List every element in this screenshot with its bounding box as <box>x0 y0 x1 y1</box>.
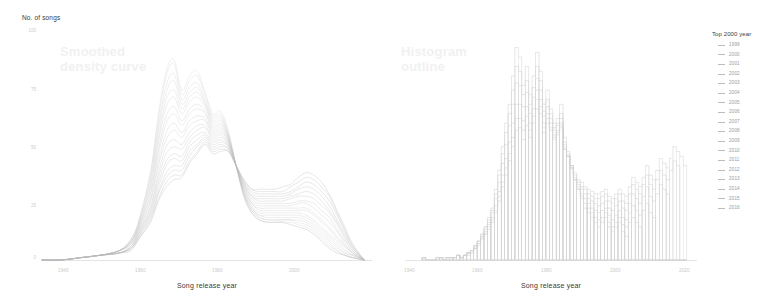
histogram-bin <box>436 258 439 260</box>
right-xtick-2020: 2020 <box>679 268 690 273</box>
histogram-bin <box>422 258 425 260</box>
legend-item[interactable]: 2000 <box>712 50 778 60</box>
histogram-bin <box>525 81 528 260</box>
histogram-bin <box>487 220 490 260</box>
histogram-bin <box>474 248 477 260</box>
histogram-bin <box>594 210 597 260</box>
left-ytick-75: 75 <box>22 87 36 92</box>
histogram-bin <box>491 222 494 260</box>
histogram-bin <box>515 130 518 260</box>
histogram-bin <box>487 229 490 260</box>
histogram-bin <box>587 194 590 260</box>
histogram-bin <box>618 201 621 260</box>
histogram-bin <box>522 140 525 260</box>
histogram-bin <box>604 208 607 260</box>
histogram-bin <box>546 107 549 260</box>
histogram-bin <box>536 78 539 260</box>
histogram-bin <box>460 258 463 260</box>
histogram-bin <box>584 203 587 260</box>
legend-item[interactable]: 2014 <box>712 184 778 194</box>
histogram-bin <box>594 194 597 260</box>
histogram-bin <box>470 253 473 260</box>
histogram-bin <box>591 218 594 260</box>
legend-item[interactable]: 2006 <box>712 108 778 118</box>
histogram-bin <box>460 258 463 260</box>
legend-item-label: 2016 <box>729 206 740 211</box>
histogram-bin <box>621 232 624 260</box>
histogram-bin <box>573 175 576 260</box>
histogram-bin <box>639 215 642 260</box>
histogram-bin <box>635 189 638 260</box>
histogram-bin <box>494 194 497 260</box>
histogram-bin <box>542 133 545 260</box>
histogram-bin <box>580 196 583 260</box>
histogram-bin <box>553 140 556 260</box>
histogram-bin <box>639 187 642 260</box>
legend-item[interactable]: 2015 <box>712 194 778 204</box>
histogram-bin <box>539 114 542 260</box>
histogram-bin <box>525 116 528 260</box>
histogram-bin <box>570 168 573 260</box>
histogram-bin <box>532 109 535 260</box>
legend-item[interactable]: 2005 <box>712 98 778 108</box>
histogram-bin <box>652 201 655 260</box>
histogram-bin <box>625 236 628 260</box>
histogram-bin <box>439 258 442 260</box>
histogram-bin <box>511 76 514 260</box>
legend-item[interactable]: 2012 <box>712 165 778 175</box>
legend-item[interactable]: 2004 <box>712 88 778 98</box>
histogram-bin <box>656 194 659 260</box>
histogram-bin <box>563 142 566 260</box>
legend-item[interactable]: 2008 <box>712 127 778 137</box>
histogram-bin <box>666 180 669 260</box>
histogram-bin <box>573 180 576 260</box>
histogram-bin <box>625 196 628 260</box>
legend-item[interactable]: 2016 <box>712 204 778 214</box>
histogram-bin <box>615 199 618 260</box>
histogram-bin <box>542 111 545 260</box>
histogram-bin <box>615 227 618 260</box>
legend-item[interactable]: 2003 <box>712 79 778 89</box>
right-histogram-plot <box>405 24 697 260</box>
histogram-bin <box>470 251 473 260</box>
histogram-bin <box>577 189 580 260</box>
histogram-bin <box>518 71 521 260</box>
histogram-bin <box>546 118 549 260</box>
histogram-bin <box>529 137 532 260</box>
histogram-bin <box>518 118 521 260</box>
histogram-bin <box>484 234 487 260</box>
density-curve <box>42 127 364 260</box>
legend-item[interactable]: 2011 <box>712 156 778 166</box>
legend-item[interactable]: 2002 <box>712 69 778 79</box>
histogram-bin <box>659 159 662 260</box>
histogram-bin <box>450 258 453 260</box>
histogram-bin <box>477 246 480 260</box>
histogram-bin <box>491 218 494 260</box>
legend-item[interactable]: 2007 <box>712 117 778 127</box>
legend-item[interactable]: 2010 <box>712 146 778 156</box>
histogram-bin <box>470 251 473 260</box>
histogram-bin <box>563 137 566 260</box>
histogram-bin <box>597 206 600 260</box>
legend-item[interactable]: 2013 <box>712 175 778 185</box>
histogram-bin <box>560 114 563 260</box>
legend-item-list: 1999200020012002200320042005200620072008… <box>712 41 778 214</box>
histogram-bin <box>628 222 631 260</box>
histogram-bin <box>676 166 679 260</box>
histogram-bin <box>525 125 528 260</box>
legend-item-label: 2005 <box>729 101 740 106</box>
legend-item[interactable]: 2001 <box>712 60 778 70</box>
histogram-bin <box>652 189 655 260</box>
legend-item-label: 2012 <box>729 168 740 173</box>
legend-item[interactable]: 1999 <box>712 41 778 51</box>
histogram-bin <box>446 258 449 260</box>
histogram-bin <box>635 182 638 260</box>
histogram-bin <box>439 258 442 260</box>
figure-root: No. of songs Smoothed density curve 100 … <box>0 0 780 306</box>
histogram-bin <box>608 196 611 260</box>
legend-item[interactable]: 2009 <box>712 136 778 146</box>
histogram-bin <box>542 116 545 260</box>
histogram-bin <box>532 123 535 260</box>
histogram-bin <box>477 241 480 260</box>
histogram-bin <box>501 147 504 260</box>
